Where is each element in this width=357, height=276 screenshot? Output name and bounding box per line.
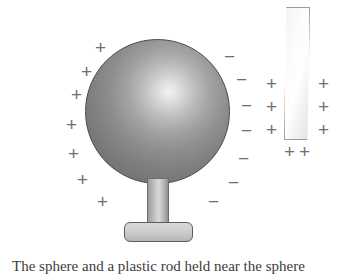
- sphere-right-negative-4: −: [238, 149, 249, 168]
- strip-right-positive-2: +: [318, 120, 329, 139]
- sphere-left-positive-6: +: [97, 192, 108, 211]
- sphere-right-negative-6: −: [208, 192, 219, 211]
- sphere-stand-post: [147, 178, 169, 224]
- sphere-left-positive-4: +: [68, 144, 79, 163]
- charged-sphere: [85, 39, 230, 184]
- sphere-right-negative-2: −: [241, 96, 252, 115]
- sphere-left-positive-3: +: [66, 115, 77, 134]
- sphere-left-positive-2: +: [71, 85, 82, 104]
- strip-bottom-positive-1: +: [299, 142, 310, 161]
- sphere-left-positive-1: +: [81, 62, 92, 81]
- sphere-right-negative-3: −: [241, 121, 252, 140]
- figure-caption: The sphere and a plastic rod held near t…: [12, 258, 352, 275]
- charged-strip: [284, 7, 310, 140]
- sphere-left-positive-0: +: [95, 38, 106, 57]
- sphere-left-positive-5: +: [77, 170, 88, 189]
- strip-left-positive-0: +: [266, 74, 277, 93]
- strip-bottom-positive-0: +: [284, 142, 295, 161]
- sphere-stand-base: [124, 222, 193, 242]
- strip-left-positive-1: +: [266, 97, 277, 116]
- sphere-right-negative-1: −: [236, 70, 247, 89]
- electrostatics-figure: +++++++−−−−−−−++++++++ The sphere and a …: [0, 0, 357, 276]
- strip-left-positive-2: +: [266, 120, 277, 139]
- sphere-right-negative-0: −: [224, 47, 235, 66]
- sphere-right-negative-5: −: [228, 173, 239, 192]
- strip-right-positive-1: +: [318, 97, 329, 116]
- strip-right-positive-0: +: [318, 74, 329, 93]
